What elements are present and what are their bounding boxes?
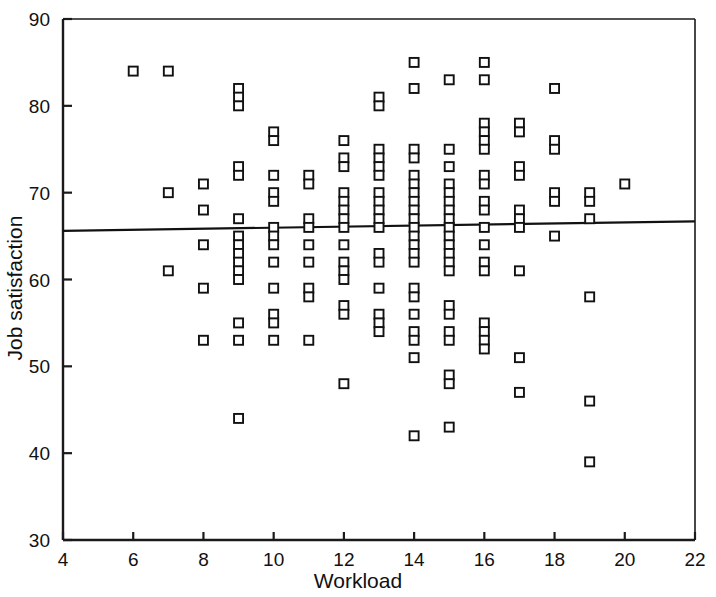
data-point-marker	[480, 171, 489, 180]
y-tick-label: 70	[29, 183, 50, 204]
plot-canvas: 46810121416182022 30405060708090 Workloa…	[0, 0, 716, 597]
data-point-marker	[515, 206, 524, 215]
data-point-marker	[375, 197, 384, 206]
data-point-marker	[445, 379, 454, 388]
data-point-marker	[445, 162, 454, 171]
data-point-marker	[269, 336, 278, 345]
data-point-marker	[480, 197, 489, 206]
data-point-marker	[304, 179, 313, 188]
data-point-marker	[339, 206, 348, 215]
x-tick-label: 10	[263, 549, 284, 570]
x-tick-label: 8	[198, 549, 209, 570]
data-point-marker	[410, 249, 419, 258]
data-point-marker	[234, 101, 243, 110]
data-point-marker	[234, 171, 243, 180]
data-point-marker	[445, 197, 454, 206]
data-point-marker	[234, 318, 243, 327]
data-point-marker	[234, 232, 243, 241]
x-tick-label: 16	[474, 549, 495, 570]
data-point-marker	[234, 249, 243, 258]
data-point-marker	[269, 310, 278, 319]
data-point-marker	[304, 284, 313, 293]
x-tick-label: 18	[544, 549, 565, 570]
data-point-marker	[480, 223, 489, 232]
data-point-marker	[199, 284, 208, 293]
data-point-marker	[410, 292, 419, 301]
data-point-marker	[445, 179, 454, 188]
data-point-marker	[585, 292, 594, 301]
data-point-marker	[515, 171, 524, 180]
data-point-marker	[480, 145, 489, 154]
data-point-marker	[410, 431, 419, 440]
data-point-marker	[410, 206, 419, 215]
y-axis-title: Job satisfaction	[3, 216, 26, 361]
data-point-marker	[550, 84, 559, 93]
x-tick-label: 14	[404, 549, 426, 570]
data-point-marker	[339, 301, 348, 310]
data-point-marker	[445, 336, 454, 345]
data-point-marker	[375, 318, 384, 327]
data-point-marker	[375, 214, 384, 223]
y-tick-label: 90	[29, 9, 50, 30]
data-point-marker	[550, 136, 559, 145]
data-point-marker	[445, 266, 454, 275]
data-point-marker	[585, 397, 594, 406]
data-point-marker	[339, 258, 348, 267]
data-point-marker	[375, 284, 384, 293]
data-point-marker	[375, 206, 384, 215]
data-point-marker	[410, 171, 419, 180]
y-tick-label: 60	[29, 270, 50, 291]
data-point-marker	[480, 119, 489, 128]
data-point-marker	[375, 145, 384, 154]
data-point-marker	[234, 240, 243, 249]
data-point-marker	[234, 414, 243, 423]
data-point-marker	[410, 284, 419, 293]
data-point-marker	[480, 75, 489, 84]
data-point-marker	[339, 240, 348, 249]
data-point-marker	[480, 127, 489, 136]
data-point-marker	[515, 353, 524, 362]
data-point-marker	[339, 223, 348, 232]
data-point-marker	[445, 214, 454, 223]
data-point-marker	[234, 266, 243, 275]
data-point-marker	[269, 188, 278, 197]
data-point-marker	[480, 318, 489, 327]
data-point-marker	[410, 240, 419, 249]
data-point-marker	[164, 67, 173, 76]
data-point-marker	[199, 240, 208, 249]
data-point-marker	[199, 206, 208, 215]
data-point-marker	[269, 258, 278, 267]
data-point-marker	[234, 275, 243, 284]
data-point-marker	[234, 162, 243, 171]
data-point-marker	[410, 58, 419, 67]
data-point-marker	[339, 197, 348, 206]
data-point-marker	[585, 188, 594, 197]
data-point-marker	[410, 214, 419, 223]
data-point-marker	[445, 206, 454, 215]
data-point-marker	[199, 179, 208, 188]
data-point-marker	[339, 379, 348, 388]
data-point-marker	[234, 336, 243, 345]
y-tick-label: 30	[29, 530, 50, 551]
data-point-marker	[164, 266, 173, 275]
y-tick-label: 50	[29, 356, 50, 377]
data-point-marker	[410, 310, 419, 319]
data-point-marker	[550, 145, 559, 154]
data-point-marker	[410, 179, 419, 188]
data-point-marker	[375, 258, 384, 267]
data-point-marker	[410, 153, 419, 162]
data-point-marker	[445, 232, 454, 241]
data-point-marker	[375, 310, 384, 319]
data-point-marker	[480, 58, 489, 67]
data-point-marker	[515, 266, 524, 275]
data-point-marker	[585, 457, 594, 466]
x-tick-label: 4	[58, 549, 69, 570]
data-point-marker	[269, 284, 278, 293]
data-point-marker	[234, 258, 243, 267]
data-point-marker	[410, 84, 419, 93]
data-point-marker	[339, 310, 348, 319]
data-point-marker	[269, 136, 278, 145]
data-point-marker	[445, 310, 454, 319]
data-point-marker	[445, 223, 454, 232]
x-tick-label: 12	[333, 549, 354, 570]
